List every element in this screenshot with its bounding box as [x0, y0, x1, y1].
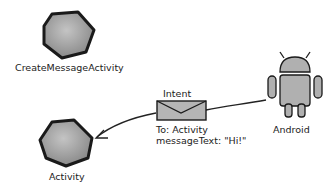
- create-activity-hexagon-icon: [44, 12, 94, 58]
- intent-message-field: messageText: "Hi!": [156, 135, 246, 146]
- connector-line: [206, 100, 266, 110]
- create-activity-label: CreateMessageActivity: [15, 62, 124, 73]
- intent-arrow-icon: [96, 113, 156, 138]
- android-label: Android: [273, 124, 310, 135]
- activity-hexagon-icon: [40, 120, 92, 166]
- android-robot-icon: [268, 52, 322, 117]
- intent-to-field: To: Activity: [156, 124, 208, 135]
- intent-title: Intent: [163, 88, 191, 99]
- envelope-icon: [157, 101, 206, 120]
- activity-label: Activity: [49, 171, 85, 182]
